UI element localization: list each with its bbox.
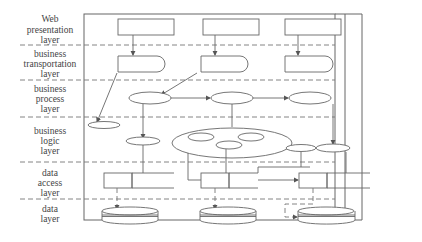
svg-text:presentation: presentation [27, 25, 74, 35]
web-box-3 [285, 19, 341, 35]
svg-text:business: business [34, 84, 67, 94]
database-3 [298, 207, 355, 224]
layer-label-transport: business transportation layer [24, 49, 77, 79]
svg-text:layer: layer [41, 69, 61, 79]
svg-text:process: process [36, 94, 65, 104]
logic-subnode-2 [238, 133, 264, 141]
svg-text:Web: Web [41, 14, 58, 24]
layer-label-data: data layer [41, 204, 61, 224]
svg-text:layer: layer [41, 35, 61, 45]
layer-label-access: data access layer [38, 168, 63, 198]
logic-subnode-1 [188, 133, 214, 141]
process-node-1 [129, 92, 171, 104]
layer-label-logic: business logic layer [34, 126, 67, 156]
transport-shape-3 [285, 56, 333, 72]
svg-text:data: data [42, 168, 59, 178]
main-frame [84, 14, 335, 220]
layer-label-web: Web presentation layer [27, 14, 74, 45]
transport-shape-2 [201, 56, 248, 72]
process-node-2 [211, 92, 253, 104]
svg-text:data: data [42, 204, 59, 214]
svg-text:logic: logic [41, 136, 60, 146]
process-node-3 [289, 92, 331, 104]
logic-node-2 [126, 137, 160, 145]
logic-node-1 [88, 122, 120, 129]
svg-text:transportation: transportation [24, 59, 77, 69]
svg-text:business: business [34, 126, 67, 136]
svg-text:access: access [38, 178, 63, 188]
access-box-1a [104, 173, 132, 188]
database-2 [200, 207, 256, 224]
transport-shape-1 [118, 56, 165, 72]
arrow-transport2-process1 [161, 73, 197, 95]
logic-node-4 [286, 145, 316, 152]
svg-text:business: business [34, 49, 67, 59]
database-1 [102, 207, 158, 224]
access-box-3a [299, 173, 327, 188]
svg-text:layer: layer [41, 146, 61, 156]
logic-node-5 [316, 144, 350, 152]
layer-label-process: business process layer [34, 84, 67, 114]
web-box-2 [203, 19, 259, 35]
svg-text:layer: layer [41, 188, 61, 198]
web-box-1 [118, 19, 174, 35]
access-box-2a [201, 173, 229, 188]
logic-subnode-3 [216, 141, 242, 149]
svg-text:layer: layer [41, 214, 61, 224]
svg-text:layer: layer [41, 104, 61, 114]
architecture-diagram: Web presentation layer business transpor… [0, 0, 422, 242]
